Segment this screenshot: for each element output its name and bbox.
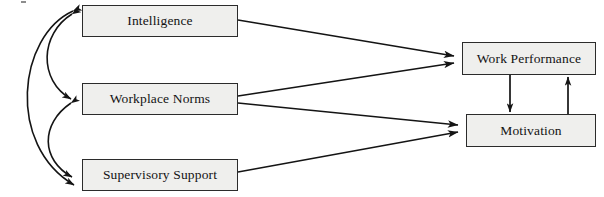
node-supervisory-support[interactable]: Supervisory Support	[82, 159, 238, 191]
edge-supervisory-support-to-motivation	[238, 132, 458, 172]
scan-artifact-speck	[21, 1, 26, 3]
path-diagram-canvas: Intelligence Workplace Norms Supervisory…	[0, 0, 604, 197]
reciprocal-path-group	[510, 75, 568, 114]
node-supervisory-support-label: Supervisory Support	[103, 168, 217, 182]
node-motivation[interactable]: Motivation	[466, 114, 596, 147]
node-workplace-norms-label: Workplace Norms	[110, 92, 211, 106]
edge-intelligence-to-work-performance	[238, 20, 454, 56]
edge-intelligence-supervisory-support-covariance	[27, 11, 74, 185]
covariance-arc-group	[27, 11, 74, 185]
node-intelligence-label: Intelligence	[127, 14, 193, 28]
edge-workplace-norms-to-motivation	[238, 103, 458, 125]
node-motivation-label: Motivation	[500, 124, 562, 138]
node-work-performance[interactable]: Work Performance	[462, 42, 596, 75]
edge-workplace-norms-to-work-performance	[238, 63, 454, 96]
node-workplace-norms[interactable]: Workplace Norms	[82, 83, 238, 115]
node-intelligence[interactable]: Intelligence	[82, 5, 238, 37]
structural-path-group	[238, 20, 458, 172]
node-work-performance-label: Work Performance	[477, 52, 581, 66]
